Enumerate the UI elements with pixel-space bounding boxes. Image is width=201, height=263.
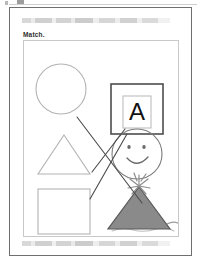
- square-shape[interactable]: [38, 189, 90, 234]
- page-title: Match.: [23, 31, 45, 38]
- smiley-mouth-icon: [127, 157, 148, 163]
- smiley-eye-right-icon: [142, 145, 145, 149]
- worksheet-page: Match.: [9, 7, 192, 256]
- scan-artifact-rule: [9, 4, 197, 5]
- worksheet-artwork: [24, 41, 179, 237]
- exercise-frame: A: [23, 40, 179, 237]
- scan-artifact-mark-left: [5, 1, 8, 5]
- letter-a-inner-border: [123, 96, 151, 128]
- circle-shape[interactable]: [36, 64, 86, 114]
- scan-edge-artifact: [0, 0, 201, 7]
- smiley-eye-left-icon: [127, 145, 130, 149]
- footer-text-band: [22, 241, 170, 246]
- header-text-band: [22, 18, 170, 23]
- triangle-shape[interactable]: [38, 135, 90, 174]
- party-hat[interactable]: [108, 187, 170, 229]
